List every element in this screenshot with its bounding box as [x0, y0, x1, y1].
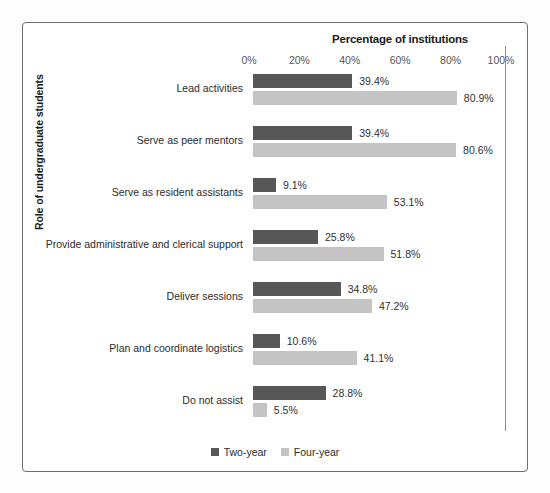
chart-figure: Percentage of institutions 0%20%40%60%80…	[0, 0, 550, 493]
bar-value-label: 28.8%	[333, 386, 363, 400]
y-axis-line	[505, 46, 506, 431]
x-axis-tick-100: 100%	[476, 54, 526, 66]
chart-row: Serve as peer mentors39.4%80.6%	[253, 126, 505, 160]
category-label: Lead activities	[13, 82, 243, 94]
bar-two-year-0	[253, 74, 352, 88]
legend-label: Two-year	[224, 446, 267, 458]
bar-four-year-0	[253, 91, 457, 105]
chart-row: Serve as resident assistants9.1%53.1%	[253, 178, 505, 212]
y-axis-title: Role of undergraduate students	[33, 74, 45, 230]
chart-row: Provide administrative and clerical supp…	[253, 230, 505, 264]
category-label: Serve as resident assistants	[13, 186, 243, 198]
bar-two-year-2	[253, 178, 276, 192]
bar-value-label: 5.5%	[274, 403, 298, 417]
chart-row: Plan and coordinate logistics10.6%41.1%	[253, 334, 505, 368]
category-label: Plan and coordinate logistics	[13, 342, 243, 354]
bar-value-label: 41.1%	[364, 351, 394, 365]
chart-row: Deliver sessions34.8%47.2%	[253, 282, 505, 316]
chart-legend: Two-yearFour-year	[0, 446, 550, 458]
bar-value-label: 51.8%	[391, 247, 421, 261]
category-label: Deliver sessions	[13, 290, 243, 302]
bar-value-label: 80.6%	[463, 143, 493, 157]
legend-label: Four-year	[294, 446, 340, 458]
chart-row: Do not assist28.8%5.5%	[253, 386, 505, 420]
bar-value-label: 25.8%	[325, 230, 355, 244]
bar-two-year-1	[253, 126, 352, 140]
bar-two-year-4	[253, 282, 341, 296]
bar-value-label: 80.9%	[464, 91, 494, 105]
x-axis-tick-0: 0%	[224, 54, 274, 66]
bar-value-label: 47.2%	[379, 299, 409, 313]
bar-four-year-5	[253, 351, 357, 365]
bar-value-label: 39.4%	[359, 126, 389, 140]
bar-two-year-6	[253, 386, 326, 400]
plot-area: Lead activities39.4%80.9%Serve as peer m…	[253, 74, 505, 428]
category-label: Provide administrative and clerical supp…	[13, 238, 243, 250]
x-axis-tick-80: 80%	[426, 54, 476, 66]
legend-item-four-year[interactable]: Four-year	[281, 446, 340, 458]
legend-swatch-icon	[211, 448, 219, 456]
category-label: Serve as peer mentors	[13, 134, 243, 146]
category-label: Do not assist	[13, 394, 243, 406]
bar-four-year-1	[253, 143, 456, 157]
bar-value-label: 10.6%	[287, 334, 317, 348]
x-axis-tick-labels: 0%20%40%60%80%100%	[0, 54, 550, 68]
bar-value-label: 34.8%	[348, 282, 378, 296]
y-axis-title-container: Role of undergraduate students	[40, 60, 60, 440]
legend-item-two-year[interactable]: Two-year	[211, 446, 267, 458]
legend-swatch-icon	[281, 448, 289, 456]
bar-value-label: 9.1%	[283, 178, 307, 192]
bar-four-year-6	[253, 403, 267, 417]
x-axis-tick-40: 40%	[325, 54, 375, 66]
bar-value-label: 53.1%	[394, 195, 424, 209]
bar-value-label: 39.4%	[359, 74, 389, 88]
chart-row: Lead activities39.4%80.9%	[253, 74, 505, 108]
bar-two-year-3	[253, 230, 318, 244]
bar-two-year-5	[253, 334, 280, 348]
bar-four-year-3	[253, 247, 384, 261]
bar-four-year-2	[253, 195, 387, 209]
x-axis-tick-60: 60%	[375, 54, 425, 66]
bar-four-year-4	[253, 299, 372, 313]
x-axis-title: Percentage of institutions	[300, 33, 500, 45]
x-axis-tick-20: 20%	[274, 54, 324, 66]
